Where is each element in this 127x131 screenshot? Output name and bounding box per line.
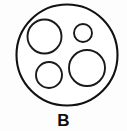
outer-boundary-circle [17, 5, 118, 106]
figure-panel: B [0, 0, 127, 131]
inclusion-bottom-right-circle [69, 50, 105, 86]
inclusion-top-right-circle [74, 24, 92, 42]
inclusion-bottom-left-circle [36, 62, 62, 88]
panel-label: B [0, 112, 127, 130]
inclusion-top-left-circle [28, 20, 62, 54]
